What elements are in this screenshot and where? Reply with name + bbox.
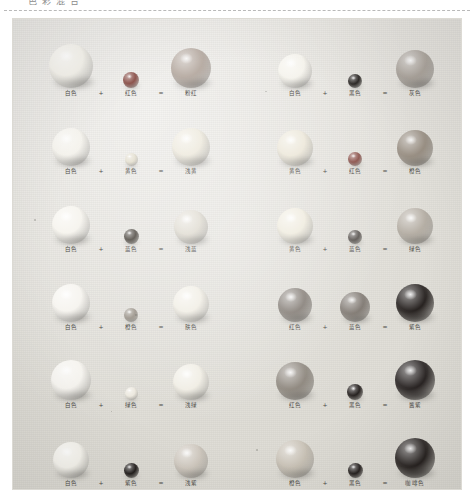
result-ball-wrap — [171, 48, 211, 88]
equation-left: 白色紫色浅紫+= — [13, 415, 237, 489]
clay-ball — [278, 54, 312, 88]
clay-ball — [396, 50, 434, 88]
operand-b-ball-wrap — [347, 384, 363, 400]
dashed-separator — [4, 10, 470, 11]
clay-ball — [174, 444, 208, 478]
result-ball-wrap — [395, 438, 435, 478]
equation-right: 橙色黑色咖啡色+= — [237, 415, 461, 489]
equation-left: 白色橙色肤色+= — [13, 259, 237, 337]
operand-a-ball-wrap — [276, 440, 314, 478]
equals-operator: = — [375, 323, 395, 330]
clay-ball — [52, 284, 90, 322]
clay-ball — [125, 153, 138, 166]
equals-operator: = — [151, 479, 171, 486]
clay-ball — [348, 463, 363, 478]
clay-ball — [396, 284, 434, 322]
cloth-speck — [265, 91, 267, 92]
equation-left: 白色红色粉红+= — [13, 25, 237, 103]
plus-operator: + — [315, 167, 335, 174]
plus-operator: + — [315, 323, 335, 330]
equation-row: 白色橙色肤色+=红色蓝色紫色+= — [13, 259, 461, 337]
clay-ball — [123, 72, 139, 88]
plus-operator: + — [315, 479, 335, 486]
operand-a-ball-wrap — [49, 44, 93, 88]
operand-a-ball-wrap — [52, 206, 90, 244]
operand-b-ball-wrap — [340, 292, 370, 322]
operand-b-ball-wrap — [125, 387, 138, 400]
result-ball-wrap — [174, 210, 208, 244]
result-ball-wrap — [173, 286, 209, 322]
equation-left: 白色蓝色浅蓝+= — [13, 181, 237, 259]
result-ball-wrap — [174, 444, 208, 478]
equals-operator: = — [375, 479, 395, 486]
result-ball-wrap — [397, 208, 433, 244]
equals-operator: = — [151, 245, 171, 252]
cloth-speck — [34, 219, 36, 221]
cloth-speck — [256, 449, 258, 451]
operand-a-ball-wrap — [278, 288, 312, 322]
clay-ball — [348, 152, 362, 166]
plus-operator: + — [91, 401, 111, 408]
operand-b-ball-wrap — [348, 230, 362, 244]
operand-a-ball-wrap — [277, 208, 313, 244]
equals-operator: = — [151, 401, 171, 408]
equals-operator: = — [151, 167, 171, 174]
clay-ball — [124, 463, 139, 478]
clay-ball — [395, 360, 435, 400]
result-ball-wrap — [172, 128, 210, 166]
clay-ball — [52, 128, 90, 166]
result-ball-wrap — [397, 130, 433, 166]
clay-ball — [174, 210, 208, 244]
plus-operator: + — [91, 323, 111, 330]
equals-operator: = — [151, 89, 171, 96]
page-root: 色 彩 混 合 白色红色粉红+=白色黑色灰色+=白色黄色浅黄+=黄色红色橙色+=… — [0, 0, 474, 501]
operand-a-ball-wrap — [52, 284, 90, 322]
equation-right: 红色蓝色紫色+= — [237, 259, 461, 337]
operand-b-ball-wrap — [348, 74, 362, 88]
operand-a-ball-wrap — [278, 54, 312, 88]
plus-operator: + — [315, 401, 335, 408]
result-ball-wrap — [395, 360, 435, 400]
equation-right: 黄色红色橙色+= — [237, 103, 461, 181]
operand-b-ball-wrap — [125, 153, 138, 166]
clay-ball — [347, 384, 363, 400]
plus-operator: + — [315, 89, 335, 96]
equation-left: 白色绿色浅绿+= — [13, 337, 237, 415]
top-cut-fragment: 色 彩 混 合 — [0, 0, 474, 8]
operand-b-ball-wrap — [124, 463, 139, 478]
equation-left: 白色黄色浅黄+= — [13, 103, 237, 181]
result-ball-wrap — [173, 364, 209, 400]
operand-a-ball-wrap — [277, 130, 313, 166]
plus-operator: + — [91, 89, 111, 96]
operand-a-ball-wrap — [52, 128, 90, 166]
operand-b-ball-wrap — [348, 463, 363, 478]
color-mixing-photograph: 白色红色粉红+=白色黑色灰色+=白色黄色浅黄+=黄色红色橙色+=白色蓝色浅蓝+=… — [13, 19, 461, 489]
clay-ball — [277, 208, 313, 244]
equals-operator: = — [375, 401, 395, 408]
clay-ball — [340, 292, 370, 322]
top-cut-text: 色 彩 混 合 — [28, 0, 80, 7]
cloth-speck — [135, 314, 137, 316]
clay-ball — [173, 286, 209, 322]
equation-right: 黄色蓝色绿色+= — [237, 181, 461, 259]
equation-row: 白色蓝色浅蓝+=黄色蓝色绿色+= — [13, 181, 461, 259]
equals-operator: = — [375, 245, 395, 252]
plus-operator: + — [91, 479, 111, 486]
clay-ball — [348, 74, 362, 88]
clay-ball — [278, 288, 312, 322]
clay-ball — [124, 229, 139, 244]
equals-operator: = — [375, 89, 395, 96]
equation-right: 白色黑色灰色+= — [237, 25, 461, 103]
operand-a-ball-wrap — [51, 360, 91, 400]
equation-grid: 白色红色粉红+=白色黑色灰色+=白色黄色浅黄+=黄色红色橙色+=白色蓝色浅蓝+=… — [13, 19, 461, 489]
equation-row: 白色黄色浅黄+=黄色红色橙色+= — [13, 103, 461, 181]
clay-ball — [397, 130, 433, 166]
clay-ball — [276, 362, 314, 400]
operand-b-ball-wrap — [124, 229, 139, 244]
plus-operator: + — [91, 245, 111, 252]
cloth-speck — [111, 411, 112, 412]
plus-operator: + — [315, 245, 335, 252]
operand-a-ball-wrap — [276, 362, 314, 400]
result-ball-wrap — [396, 50, 434, 88]
equation-right: 红色黑色酱紫+= — [237, 337, 461, 415]
